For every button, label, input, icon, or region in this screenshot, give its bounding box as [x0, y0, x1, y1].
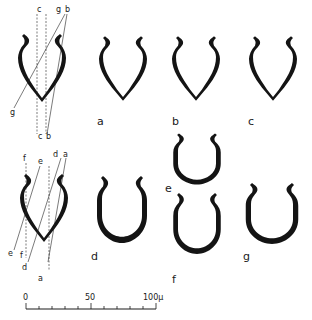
plane-label-g-top: g	[56, 5, 61, 14]
section-a: a	[97, 36, 147, 128]
section-b: b	[172, 36, 220, 128]
scale-label-0: 0	[23, 293, 28, 302]
reference-outline-top: c g b g c b	[10, 5, 70, 141]
scale-bar: 0 50 100µ	[23, 293, 163, 309]
plane-label-f-bottom: f	[20, 251, 23, 260]
plane-label-b-bottom: b	[46, 132, 51, 141]
reference-outline-bottom: f e d a e f d a	[8, 150, 68, 283]
section-c: c	[248, 36, 297, 128]
section-e: e	[165, 133, 221, 195]
section-f: f	[172, 193, 221, 286]
reference-shape-top	[18, 34, 66, 102]
section-label-a: a	[97, 115, 104, 128]
section-label-f: f	[172, 273, 177, 286]
plane-label-b-top: b	[65, 5, 70, 14]
plane-line-b	[47, 14, 67, 134]
section-label-d: d	[91, 250, 98, 263]
plane-label-e-top: e	[38, 157, 43, 166]
section-g: g	[243, 183, 298, 263]
plane-label-f-top: f	[23, 154, 26, 163]
scale-label-100: 100µ	[143, 293, 163, 302]
plane-label-d-top: d	[53, 150, 58, 159]
section-label-b: b	[172, 115, 179, 128]
plane-label-e-bottom: e	[8, 249, 13, 258]
section-d: d	[91, 176, 147, 263]
plane-label-g-bottom: g	[10, 108, 15, 117]
scale-label-50: 50	[85, 293, 95, 302]
plane-label-c-bottom: c	[38, 132, 42, 141]
plane-label-d-bottom: d	[22, 263, 27, 272]
section-label-g: g	[243, 250, 250, 263]
section-label-c: c	[248, 115, 254, 128]
plane-label-a-top: a	[63, 150, 68, 159]
plane-label-c-top: c	[37, 5, 41, 14]
scale-ticks	[26, 303, 156, 309]
section-label-e: e	[165, 182, 172, 195]
plane-label-a-bottom: a	[38, 274, 43, 283]
figure: c g b g c b f e d a e f d a a b c d	[0, 0, 312, 320]
plane-line-d	[28, 158, 61, 262]
